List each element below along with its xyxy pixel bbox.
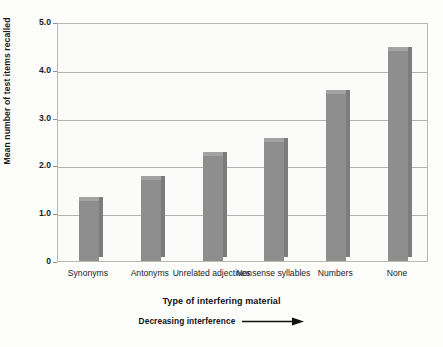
y-axis-tick-mark [53,262,57,263]
y-axis-tick-label: 0 [0,256,51,266]
bar [79,201,99,261]
bar-top-face [388,47,408,51]
bar [203,156,223,261]
gridline [58,215,427,216]
bar-side-face [223,152,227,257]
bar-side-face [99,197,103,257]
gridline [58,72,427,73]
decreasing-interference-label: Decreasing interference [139,316,236,326]
bar-top-face [264,138,284,142]
right-arrow-icon [242,317,304,326]
bar [388,51,408,261]
bar-side-face [161,176,165,257]
y-axis-tick-label: 1.0 [0,208,51,218]
bar [326,94,346,261]
gridline [58,120,427,121]
bar-side-face [284,138,288,258]
bar [264,142,284,262]
y-axis-tick-label: 3.0 [0,113,51,123]
bar-side-face [346,90,350,257]
bar-top-face [203,152,223,156]
y-axis-title: Mean number of test items recalled [2,0,12,206]
bar-top-face [79,197,99,201]
bar-top-face [326,90,346,94]
gridline [58,167,427,168]
plot-area [57,23,428,262]
bar-top-face [141,176,161,180]
y-axis-tick-label: 2.0 [0,160,51,170]
bar-side-face [408,47,412,257]
y-axis-tick-label: 5.0 [0,17,51,27]
bar [141,180,161,261]
decreasing-interference-annotation: Decreasing interference [0,316,443,326]
y-axis-tick-label: 4.0 [0,65,51,75]
x-axis-tick-label: None [354,268,440,279]
bar-chart-figure: recalling how much time on the same posi… [0,0,443,347]
x-axis-title: Type of interfering material [0,296,443,306]
